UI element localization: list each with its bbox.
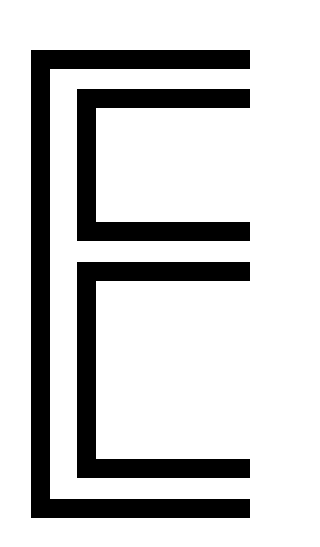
bracket-shape-inner-bottom	[77, 262, 250, 478]
bracket-shape-inner-top	[77, 89, 250, 241]
